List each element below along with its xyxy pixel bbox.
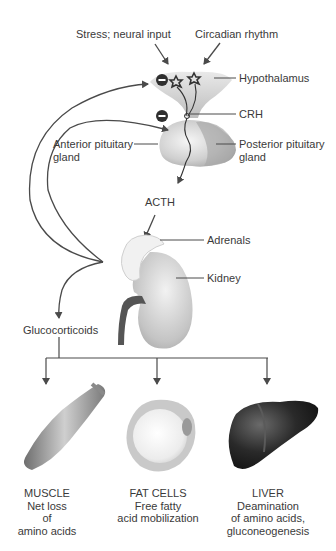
fat-cells-effect-line2: acid mobilization: [112, 512, 204, 525]
acth-label: ACTH: [145, 196, 175, 209]
negative-feedback-hypothalamus-icon: [156, 74, 168, 86]
fat-cell-illustration: [127, 400, 196, 472]
liver-effect-line2: of amino acids,: [222, 512, 314, 525]
fat-cells-caption: FAT CELLS Free fatty acid mobilization: [112, 487, 204, 525]
anterior-pituitary-line2: gland: [53, 151, 133, 164]
muscle-caption: MUSCLE Net loss of amino acids: [6, 487, 88, 537]
adrenals-label: Adrenals: [207, 234, 250, 247]
liver-caption: LIVER Deamination of amino acids, glucon…: [222, 487, 314, 537]
muscle-effect-line3: amino acids: [6, 525, 88, 538]
posterior-pituitary-label: Posterior pituitary gland: [239, 138, 325, 164]
negative-feedback-pituitary-icon: [156, 110, 168, 122]
fat-cells-effect-line1: Free fatty: [112, 500, 204, 513]
posterior-pituitary-line1: Posterior pituitary: [239, 138, 325, 151]
muscle-illustration: [24, 384, 105, 470]
anterior-pituitary-label: Anterior pituitary gland: [53, 138, 133, 164]
pituitary-gland: [159, 120, 236, 167]
liver-illustration: [229, 401, 319, 469]
kidney-label: Kidney: [207, 272, 241, 285]
liver-effect-line1: Deamination: [222, 500, 314, 513]
muscle-title: MUSCLE: [6, 487, 88, 500]
anterior-pituitary-line1: Anterior pituitary: [53, 138, 133, 151]
muscle-effect-line1: Net loss: [6, 500, 88, 513]
liver-title: LIVER: [222, 487, 314, 500]
glucocorticoids-label: Glucocorticoids: [23, 324, 98, 337]
circadian-rhythm-label: Circadian rhythm: [195, 28, 278, 41]
posterior-pituitary-line2: gland: [239, 151, 325, 164]
fat-cells-title: FAT CELLS: [112, 487, 204, 500]
liver-effect-line3: gluconeogenesis: [222, 525, 314, 538]
stress-input-label: Stress; neural input: [76, 28, 171, 41]
muscle-effect-line2: of: [6, 512, 88, 525]
hypothalamus-label: Hypothalamus: [239, 72, 309, 85]
crh-label: CRH: [239, 108, 263, 121]
